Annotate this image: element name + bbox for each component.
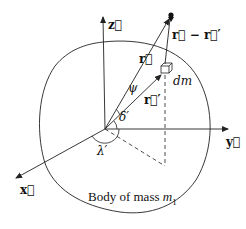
body-outline [39,41,210,213]
dm-label: dm [173,75,192,87]
psi-label: ψ [128,82,137,94]
caption-var: m [163,189,172,204]
x-axis [16,129,105,178]
r-vector [105,19,169,129]
delta-prime-label: δ′ [119,111,129,123]
z-axis [103,17,105,129]
r-label: r⃗ [139,53,153,65]
caption: Body of mass m1 [88,190,177,207]
lambda-arc [92,129,119,143]
z-axis-label: z⃗ [108,19,122,31]
r-minus-r-prime-label: r⃗ − r⃗′ [172,29,221,41]
r-minus-r-prime-vector [165,19,170,64]
point-mass [168,12,173,17]
r-prime-label: r⃗′ [144,94,161,106]
diagram-canvas: z⃗ y⃗ x⃗ r⃗ r⃗′ r⃗ − r⃗′ dm ψ δ′ λ′ Body… [0,0,246,229]
y-axis-label: y⃗ [226,136,240,148]
delta-arc [114,121,117,129]
caption-prefix: Body of mass [88,189,163,204]
caption-sub: 1 [172,197,177,207]
dm-cube-icon [161,63,172,73]
lambda-prime-label: λ′ [97,145,107,157]
projection-base [105,129,165,166]
x-axis-label: x⃗ [20,184,34,196]
